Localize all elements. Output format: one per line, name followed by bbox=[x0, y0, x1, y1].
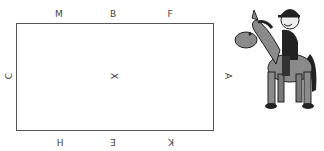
letter-f: F bbox=[164, 9, 176, 19]
letter-e: E bbox=[107, 137, 119, 147]
letter-b: B bbox=[107, 9, 119, 19]
letter-m: M bbox=[53, 9, 65, 19]
horse-rider-illustration bbox=[232, 2, 324, 114]
letter-k: K bbox=[165, 137, 177, 147]
letter-x: X bbox=[109, 70, 119, 82]
letter-c: C bbox=[4, 70, 14, 82]
letter-h: H bbox=[54, 137, 66, 147]
